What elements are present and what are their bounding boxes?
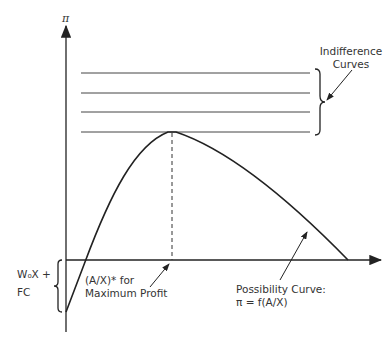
- fixed-cost-label-line2: FC: [17, 286, 51, 299]
- optimum-label-line2: Maximum Profit: [85, 287, 167, 300]
- fixed-cost-brace: [54, 260, 62, 312]
- fixed-cost-label: W₀X + FC: [17, 268, 51, 299]
- indifference-label-line2: Curves: [316, 58, 386, 71]
- indifference-brace: [315, 69, 325, 135]
- fixed-cost-label-line1: W₀X +: [17, 268, 51, 281]
- possibility-label-line1: Possibility Curve:: [236, 283, 326, 296]
- indifference-label: Indifference Curves: [316, 45, 386, 71]
- y-axis-label: π: [62, 12, 69, 25]
- optimum-label-line1: (A/X)* for: [85, 274, 167, 287]
- possibility-label: Possibility Curve: π = f(A/X): [236, 283, 326, 309]
- possibility-label-line2: π = f(A/X): [236, 296, 326, 309]
- indifference-label-line1: Indifference: [316, 45, 386, 58]
- indifference-curves: [81, 73, 310, 132]
- optimum-label: (A/X)* for Maximum Profit: [85, 274, 167, 300]
